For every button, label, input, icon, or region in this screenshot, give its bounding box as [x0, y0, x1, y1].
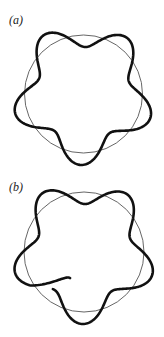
reference-circle [24, 192, 144, 312]
reference-circle [25, 35, 143, 153]
wavy-ring-diagram-a [0, 0, 164, 168]
closed-wave-curve [15, 33, 151, 165]
wavy-ring-diagram-b [0, 168, 164, 337]
panel-a: (a) [0, 0, 164, 168]
panel-b: (b) [0, 168, 164, 337]
open-wave-curve [15, 190, 153, 324]
